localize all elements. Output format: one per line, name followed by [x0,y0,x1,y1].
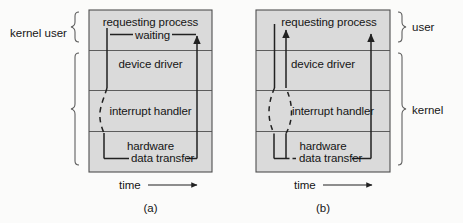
panel-a-kernel-brace [71,53,79,165]
panel-b-side-label-kernel: kernel [412,104,443,116]
figure-root: requesting process device driver interru… [0,0,463,223]
panel-a-label-requesting-process: requesting process [89,16,212,28]
panel-a-time-label: time [119,179,141,191]
panel-a-side-label-kernel-user: kernel user [10,27,67,39]
panel-b-label-data-transfer: data transfer [299,152,362,164]
panel-a-label-waiting: waiting [135,29,170,41]
panel-a-user-brace [71,12,79,42]
panel-b-caption: (b) [256,202,390,214]
panel-a-label-interrupt-handler: interrupt handler [89,105,212,117]
panel-a-label-data-transfer: data transfer [131,152,194,164]
panel-b-label-device-driver: device driver [256,58,390,70]
panel-b-time-label: time [294,179,316,191]
panel-a-label-device-driver: device driver [89,58,212,70]
panel-b-label-hardware: hardware [256,140,390,152]
panel-a-caption: (a) [89,202,212,214]
panel-b-user-brace [398,12,406,42]
panel-b-label-requesting-process: requesting process [262,16,396,28]
panel-b-side-label-user: user [412,21,434,33]
panel-a-label-hardware: hardware [89,140,212,152]
panel-b-label-interrupt-handler: interrupt handler [266,105,400,117]
